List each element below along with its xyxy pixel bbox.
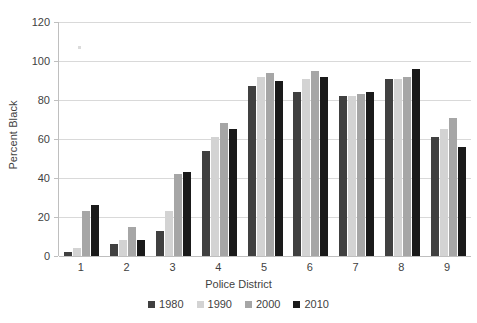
x-tick-label-7: 7 bbox=[352, 262, 358, 273]
bar-1990-district-8 bbox=[394, 79, 402, 256]
bar-group-district-4 bbox=[202, 22, 237, 256]
bar-group-district-1 bbox=[64, 22, 99, 256]
bar-group-district-6 bbox=[293, 22, 328, 256]
bar-1990-district-4 bbox=[211, 137, 219, 256]
bar-group-district-5 bbox=[248, 22, 283, 256]
y-tick-label-20: 20 bbox=[6, 212, 50, 223]
chart-legend: 1980199020002010 bbox=[0, 299, 477, 310]
bar-chart: Percent Black 020406080100120 123456789 … bbox=[0, 0, 477, 323]
legend-item-2010[interactable]: 2010 bbox=[293, 299, 328, 310]
x-tick-label-6: 6 bbox=[307, 262, 313, 273]
y-tick-mark-60 bbox=[54, 139, 58, 140]
x-tick-label-8: 8 bbox=[398, 262, 404, 273]
bar-group-district-2 bbox=[110, 22, 145, 256]
y-tick-label-120: 120 bbox=[6, 17, 50, 28]
bar-group-district-3 bbox=[156, 22, 191, 256]
bar-1980-district-1 bbox=[64, 252, 72, 256]
x-tick-label-2: 2 bbox=[124, 262, 130, 273]
legend-swatch-icon-2000 bbox=[245, 301, 252, 308]
bar-group-district-9 bbox=[431, 22, 466, 256]
bar-2010-district-9 bbox=[458, 147, 466, 256]
bar-2000-district-8 bbox=[403, 77, 411, 256]
legend-item-1990[interactable]: 1990 bbox=[197, 299, 232, 310]
legend-swatch-icon-2010 bbox=[293, 301, 300, 308]
bars-layer bbox=[59, 22, 471, 256]
bar-1990-district-3 bbox=[165, 211, 173, 256]
bar-2000-district-5 bbox=[266, 73, 274, 256]
bar-2010-district-8 bbox=[412, 69, 420, 256]
bar-1990-district-7 bbox=[348, 96, 356, 256]
legend-label-1980: 1980 bbox=[159, 299, 183, 310]
bar-2010-district-1 bbox=[91, 205, 99, 256]
bar-1980-district-9 bbox=[431, 137, 439, 256]
y-tick-mark-100 bbox=[54, 61, 58, 62]
legend-item-1980[interactable]: 1980 bbox=[148, 299, 183, 310]
bar-2000-district-9 bbox=[449, 118, 457, 256]
plot-area bbox=[58, 22, 471, 256]
bar-1980-district-5 bbox=[248, 86, 256, 256]
bar-2010-district-6 bbox=[320, 77, 328, 256]
legend-swatch-icon-1990 bbox=[197, 301, 204, 308]
bar-2010-district-5 bbox=[275, 81, 283, 257]
x-axis-title: Police District bbox=[0, 278, 477, 290]
bar-1980-district-2 bbox=[110, 244, 118, 256]
legend-label-1990: 1990 bbox=[208, 299, 232, 310]
bar-1990-district-6 bbox=[302, 79, 310, 256]
bar-1980-district-3 bbox=[156, 231, 164, 256]
bar-2000-district-3 bbox=[174, 174, 182, 256]
bar-1990-district-1 bbox=[73, 248, 81, 256]
bar-2000-district-6 bbox=[311, 71, 319, 256]
bar-group-district-7 bbox=[339, 22, 374, 256]
bar-1980-district-8 bbox=[385, 79, 393, 256]
y-tick-label-80: 80 bbox=[6, 95, 50, 106]
bar-1980-district-6 bbox=[293, 92, 301, 256]
bar-2000-district-4 bbox=[220, 123, 228, 256]
bar-1980-district-7 bbox=[339, 96, 347, 256]
y-tick-label-60: 60 bbox=[6, 134, 50, 145]
y-tick-label-0: 0 bbox=[6, 251, 50, 262]
bar-1990-district-9 bbox=[440, 129, 448, 256]
bar-2000-district-2 bbox=[128, 227, 136, 256]
legend-label-2010: 2010 bbox=[304, 299, 328, 310]
y-tick-mark-80 bbox=[54, 100, 58, 101]
y-tick-mark-40 bbox=[54, 178, 58, 179]
x-tick-label-5: 5 bbox=[261, 262, 267, 273]
y-tick-label-100: 100 bbox=[6, 56, 50, 67]
x-tick-label-4: 4 bbox=[215, 262, 221, 273]
gridline-0 bbox=[59, 256, 471, 257]
bar-2010-district-7 bbox=[366, 92, 374, 256]
legend-swatch-icon-1980 bbox=[148, 301, 155, 308]
y-tick-mark-20 bbox=[54, 217, 58, 218]
y-tick-mark-0 bbox=[54, 256, 58, 257]
bar-2010-district-2 bbox=[137, 240, 145, 256]
x-tick-label-3: 3 bbox=[169, 262, 175, 273]
x-tick-label-1: 1 bbox=[78, 262, 84, 273]
bar-2000-district-7 bbox=[357, 94, 365, 256]
bar-1980-district-4 bbox=[202, 151, 210, 256]
bar-1990-district-2 bbox=[119, 240, 127, 256]
bar-2010-district-3 bbox=[183, 172, 191, 256]
bar-2000-district-1 bbox=[82, 211, 90, 256]
x-tick-label-9: 9 bbox=[444, 262, 450, 273]
bar-group-district-8 bbox=[385, 22, 420, 256]
x-axis-title-label: Police District bbox=[205, 278, 272, 290]
bar-2010-district-4 bbox=[229, 129, 237, 256]
bar-1990-district-5 bbox=[257, 77, 265, 256]
y-tick-mark-120 bbox=[54, 22, 58, 23]
legend-label-2000: 2000 bbox=[256, 299, 280, 310]
y-tick-label-40: 40 bbox=[6, 173, 50, 184]
legend-item-2000[interactable]: 2000 bbox=[245, 299, 280, 310]
